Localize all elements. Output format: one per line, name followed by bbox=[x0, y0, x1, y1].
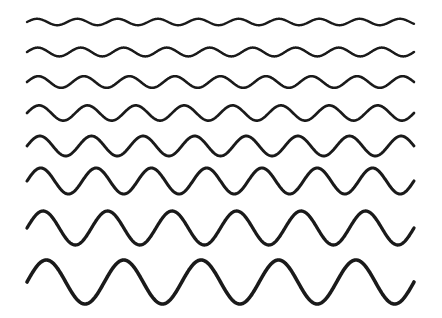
wave-chart-canvas bbox=[0, 0, 442, 318]
chart-background bbox=[0, 0, 442, 318]
wave-figure bbox=[0, 0, 442, 318]
